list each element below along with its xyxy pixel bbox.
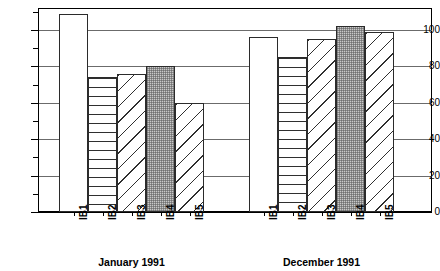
- bar-chart: 020406080100 IB1IB2IB3IB4IB5IB1IB2IB3IB4…: [0, 0, 440, 271]
- x-tick: [74, 212, 75, 216]
- bar-january-ib3: [117, 74, 146, 212]
- bar-december-ib2: [278, 57, 307, 212]
- x-category-label-ib2: IB2: [298, 204, 308, 220]
- x-tick: [264, 212, 265, 216]
- x-category-label-ib4: IB4: [356, 204, 366, 220]
- x-category-label-ib3: IB3: [137, 204, 147, 220]
- bar-december-ib4: [336, 26, 365, 212]
- x-category-label-ib2: IB2: [108, 204, 118, 220]
- x-category-label-ib5: IB5: [195, 204, 205, 220]
- x-tick: [103, 212, 104, 216]
- bar-january-ib4: [146, 66, 175, 212]
- bar-january-ib2: [88, 77, 117, 212]
- bar-january-ib1: [59, 14, 88, 212]
- x-tick: [132, 212, 133, 216]
- bar-december-ib5: [365, 32, 394, 212]
- bar-december-ib1: [249, 37, 278, 212]
- x-tick: [322, 212, 323, 216]
- x-axis-line: [38, 212, 432, 213]
- bars-layer: [38, 8, 432, 212]
- bar-january-ib5: [175, 103, 204, 212]
- x-category-label-ib4: IB4: [166, 204, 176, 220]
- x-tick: [351, 212, 352, 216]
- x-category-label-ib1: IB1: [269, 204, 279, 220]
- group-label-december: December 1991: [262, 256, 382, 268]
- x-tick: [190, 212, 191, 216]
- x-category-label-ib5: IB5: [385, 204, 395, 220]
- x-category-label-ib3: IB3: [327, 204, 337, 220]
- x-category-label-ib1: IB1: [79, 204, 89, 220]
- x-tick: [380, 212, 381, 216]
- x-tick: [293, 212, 294, 216]
- bar-december-ib3: [307, 39, 336, 212]
- x-tick: [161, 212, 162, 216]
- group-label-january: January 1991: [72, 256, 192, 268]
